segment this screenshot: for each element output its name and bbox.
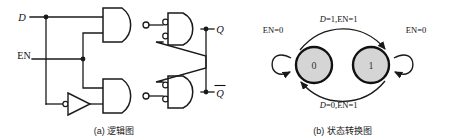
gate-negand-bottom-body: [168, 76, 193, 108]
logic-diagram-svg: D EN: [0, 0, 228, 122]
gate-negand-top-body: [168, 13, 193, 45]
transition-self-loop-state1: [394, 55, 413, 74]
gate-nand-top-bubble: [143, 22, 149, 28]
panel-logic-diagram: D EN: [0, 0, 228, 139]
state-diagram-svg: 0 1 D =1,EN=1 D =0,EN=1 EN=0 EN=0: [228, 0, 457, 122]
gate-nand-bottom-body: [103, 79, 131, 113]
output-label-q: Q: [216, 24, 224, 35]
panel-state-diagram: 0 1 D =1,EN=1 D =0,EN=1 EN=0 EN=0 (b) 状态…: [228, 0, 457, 139]
wire-en-to-nand-top: [83, 33, 103, 59]
transition-label-1-to-0-rest: =0,EN=1: [326, 100, 358, 110]
caption-panel-a: (a) 逻辑图: [0, 124, 228, 137]
transition-label-1-to-0: D =0,EN=1: [319, 100, 358, 110]
gate-nand-top-body: [103, 8, 131, 42]
inverter-triangle: [68, 93, 90, 115]
state-label-1: 1: [369, 60, 374, 71]
input-label-en: EN: [17, 50, 30, 61]
transition-self-loop-state0: [272, 55, 291, 74]
transition-label-0-to-1: D =1,EN=1: [319, 14, 358, 24]
figure-container: D EN: [0, 0, 457, 139]
state-label-0: 0: [312, 60, 317, 71]
output-label-qbar-group: Q: [215, 86, 225, 100]
caption-panel-b: (b) 状态转换图: [228, 124, 457, 137]
input-label-d: D: [17, 12, 26, 23]
transition-label-0-to-1-rest: =1,EN=1: [326, 14, 358, 24]
output-label-qbar: Q: [216, 88, 224, 99]
gate-nand-bottom-bubble: [143, 93, 149, 99]
wire-en-to-nand-bottom: [83, 59, 103, 88]
transition-label-self-0: EN=0: [263, 25, 283, 35]
transition-label-self-1: EN=0: [406, 25, 426, 35]
